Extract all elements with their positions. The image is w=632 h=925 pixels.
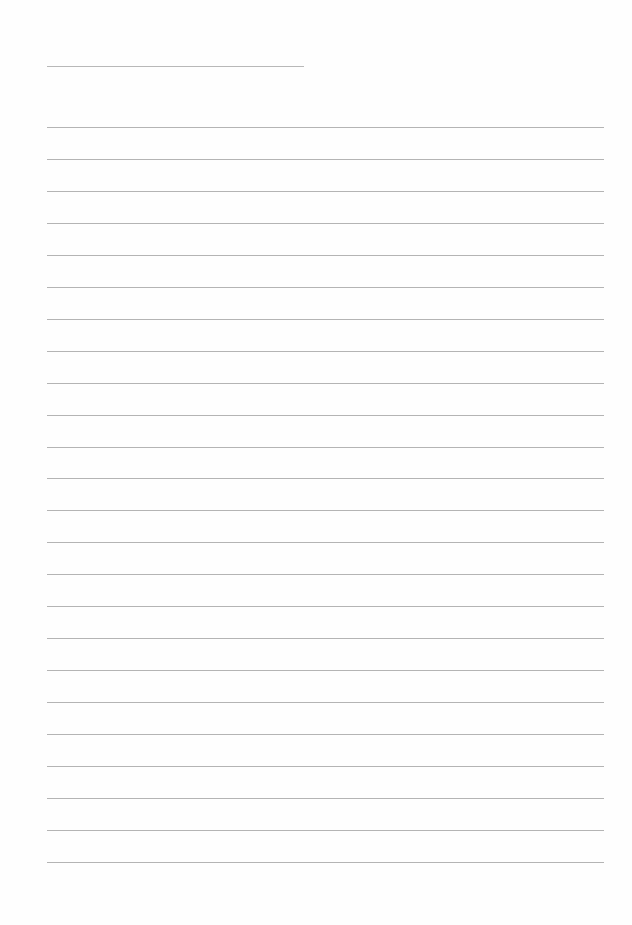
ruled-line: [47, 734, 604, 735]
ruled-line: [47, 574, 604, 575]
ruled-line: [47, 478, 604, 479]
ruled-line: [47, 447, 604, 448]
ruled-line: [47, 415, 604, 416]
ruled-line: [47, 159, 604, 160]
ruled-line: [47, 542, 604, 543]
ruled-line: [47, 287, 604, 288]
ruled-line: [47, 319, 604, 320]
ruled-line: [47, 191, 604, 192]
ruled-line: [47, 255, 604, 256]
ruled-line: [47, 351, 604, 352]
ruled-line: [47, 223, 604, 224]
ruled-line: [47, 606, 604, 607]
ruled-lines-container: [0, 0, 632, 925]
ruled-line: [47, 862, 604, 863]
ruled-line: [47, 638, 604, 639]
ruled-line: [47, 510, 604, 511]
ruled-line: [47, 830, 604, 831]
ruled-line: [47, 798, 604, 799]
ruled-line: [47, 127, 604, 128]
ruled-line: [47, 670, 604, 671]
lined-paper-page: [0, 0, 632, 925]
ruled-line: [47, 383, 604, 384]
ruled-line: [47, 766, 604, 767]
ruled-line: [47, 702, 604, 703]
